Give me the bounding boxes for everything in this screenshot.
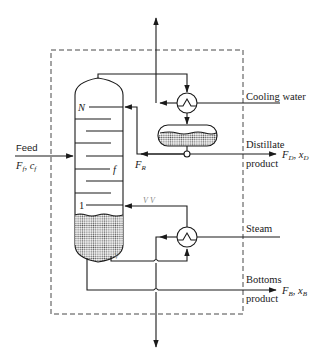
vapor-to-condenser [156,74,187,92]
reboiler [177,227,197,247]
bottom-drain-trunk [156,237,160,347]
tray-label-bottom: 1 [79,200,84,211]
reflux-label: FR [134,159,146,172]
feed-vars: Ff, cf [15,160,37,173]
distillation-diagram: N f 1 Cooling water Distillate product F… [0,0,331,364]
distillate-label-1: Distillate [246,139,285,150]
steam-label: Steam [246,223,272,234]
reflux-drum [158,125,217,146]
tray-label-feed: f [113,164,118,175]
distillate-label-2: product [246,158,278,169]
distillate-vars: FD, xD [281,149,308,162]
bottoms-vars: FB, xB [281,285,308,298]
condenser [177,93,197,113]
feed-label: Feed [16,142,38,153]
reflux-line [125,107,184,154]
bottoms-label-1: Bottoms [246,274,282,285]
distillation-column: N f 1 [75,78,123,262]
vapor-mark-1: V [143,196,149,205]
control-boundary [51,50,243,314]
reboiler-vapor-return [125,206,187,227]
vapor-mark-2: V [150,196,156,205]
distillate-valve [184,151,190,157]
cooling-water-label: Cooling water [246,91,306,102]
overhead-vapor-line [98,74,156,78]
bottoms-draw-line [87,258,154,290]
bottoms-label-2: product [246,293,278,304]
tray-label-top: N [77,102,86,113]
